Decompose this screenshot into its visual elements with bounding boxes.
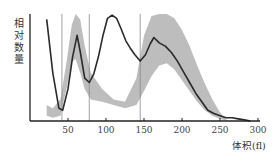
x-tick-label: 50 bbox=[62, 125, 74, 135]
reference-band bbox=[47, 14, 228, 121]
x-tick-label: 100 bbox=[97, 125, 114, 135]
x-tick-label: 250 bbox=[211, 125, 228, 135]
x-tick-label: 200 bbox=[173, 125, 190, 135]
x-axis-label: 体积(fl) bbox=[232, 138, 266, 152]
histogram-chart: 50100150200250300 bbox=[0, 0, 277, 156]
y-axis-label: 相对数量 bbox=[13, 18, 25, 66]
x-tick-label: 300 bbox=[249, 125, 266, 135]
x-tick-label: 150 bbox=[135, 125, 152, 135]
